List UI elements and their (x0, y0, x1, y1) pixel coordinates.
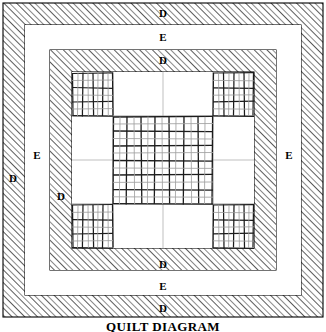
label-e-top: E (159, 32, 166, 43)
label-e-left: E (33, 150, 40, 161)
label-d-bottom-inner: D (159, 259, 167, 270)
label-e-right: E (285, 150, 292, 161)
quilt-diagram-figure: D E D D E D E D E D QUILT DIAGRAM (0, 0, 326, 332)
label-e-bottom: E (159, 281, 166, 292)
label-d-left-inner: D (57, 191, 65, 202)
figure-caption: QUILT DIAGRAM (0, 320, 326, 332)
label-d-top-outer: D (159, 8, 167, 19)
label-d-top-inner: D (159, 55, 167, 66)
label-d-left-outer: D (9, 173, 17, 184)
label-d-bottom-outer: D (159, 303, 167, 314)
